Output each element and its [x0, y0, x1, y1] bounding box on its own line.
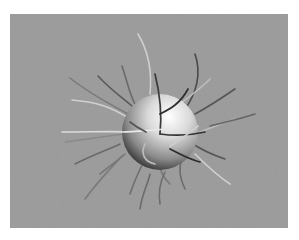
sphere-with-strands-illustration: [10, 14, 288, 228]
render-panel: [10, 14, 288, 228]
